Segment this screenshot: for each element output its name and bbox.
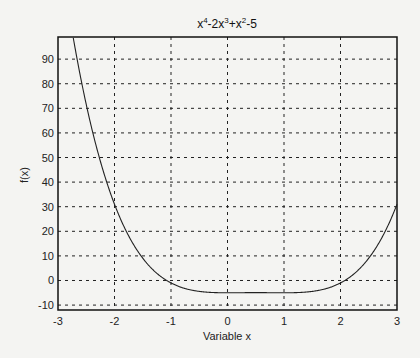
y-tick-label: 50 [42, 152, 54, 164]
x-axis-label: Variable x [203, 330, 252, 342]
x-tick-label: 1 [281, 315, 287, 327]
y-tick-label: 20 [42, 225, 54, 237]
x-tick-label: 0 [224, 315, 230, 327]
y-tick-label: 70 [42, 102, 54, 114]
series-line [73, 38, 397, 293]
y-tick-label: 90 [42, 53, 54, 65]
y-tick-label: 30 [42, 201, 54, 213]
y-tick-label: 10 [42, 250, 54, 262]
y-tick-label: 60 [42, 127, 54, 139]
x-tick-label: 3 [394, 315, 400, 327]
chart-title: x4-2x3+x2-5 [197, 16, 257, 31]
y-tick-label: 40 [42, 176, 54, 188]
x-tick-label: -1 [166, 315, 176, 327]
y-tick-label: -10 [38, 299, 54, 311]
x-tick-label: -3 [53, 315, 63, 327]
x-tick-label: 2 [337, 315, 343, 327]
y-tick-label: 0 [48, 274, 54, 286]
x-tick-label: -2 [110, 315, 120, 327]
chart: -3-2-10123-100102030405060708090 x4-2x3+… [0, 0, 420, 358]
grid [58, 37, 397, 310]
y-axis-label: f(x) [18, 167, 30, 183]
y-tick-label: 80 [42, 78, 54, 90]
